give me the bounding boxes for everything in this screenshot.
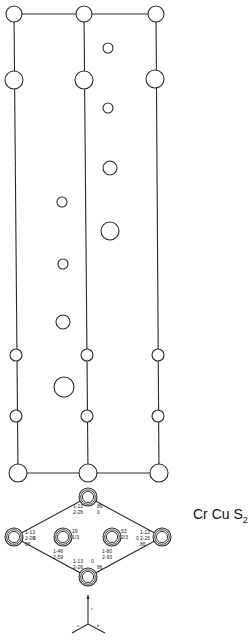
- formula-elements: Cr Cu S: [193, 506, 243, 522]
- top-view-projection: 1-132-268601-132-26086191/31-462-59532/3…: [5, 488, 171, 586]
- a-axis-arrow: [72, 624, 88, 633]
- site-label: 0: [97, 509, 100, 515]
- site-top: 1-132-26860: [73, 488, 103, 515]
- atom-circle: [10, 410, 22, 422]
- c-axis-arrowhead-icon: [87, 594, 90, 599]
- site-label: 2-93: [102, 554, 112, 560]
- b-axis-label: b: [97, 623, 100, 628]
- atom-circle: [10, 349, 22, 361]
- atom-circle: [54, 377, 74, 397]
- atom-circle: [103, 103, 113, 113]
- site-ring: [5, 528, 23, 546]
- atom-circle: [150, 464, 168, 482]
- top-view-sites: 1-132-268601-132-26086191/31-462-59532/3…: [5, 488, 171, 586]
- site-label: 2/3: [121, 534, 128, 540]
- atom-circle: [152, 410, 164, 422]
- atom-circle: [81, 410, 93, 422]
- atom-circle: [79, 464, 97, 482]
- site-label: 86: [140, 541, 146, 547]
- atom-circle: [152, 349, 164, 361]
- site-inner-left: 191/31-462-59: [53, 528, 79, 560]
- axes-indicator: c a b: [72, 594, 105, 633]
- atom-circle: [5, 71, 23, 89]
- site-ring: [54, 528, 72, 546]
- atom-circle: [103, 161, 117, 175]
- site-label: 0: [91, 558, 94, 564]
- c-axis-label: c: [91, 606, 93, 611]
- site-ring: [79, 568, 97, 586]
- crystal-structure-diagram: 1-132-268601-132-26086191/31-462-59532/3…: [0, 0, 249, 640]
- atom-circle: [76, 6, 92, 22]
- atom-circle: [103, 43, 113, 53]
- atom-circle: [56, 315, 70, 329]
- site-ring: [103, 528, 121, 546]
- site-left: 1-132-26086: [5, 528, 36, 547]
- site-label: 2-26: [73, 509, 83, 515]
- site-right: 1-132-26086: [136, 528, 171, 547]
- atom-circle: [81, 349, 93, 361]
- atom-circle: [75, 71, 93, 89]
- site-inner-right: 532/31-802-93: [102, 528, 128, 560]
- atom-circle: [57, 197, 67, 207]
- site-label: 86: [25, 541, 31, 547]
- atom-circle: [146, 70, 164, 88]
- compound-formula: Cr Cu S2: [193, 506, 248, 525]
- atom-circle: [101, 222, 119, 240]
- site-label: 86: [97, 564, 103, 570]
- atom-circle: [6, 6, 22, 22]
- atom-circle: [148, 6, 164, 22]
- atom-circle: [58, 259, 68, 269]
- formula-subscript: 2: [243, 515, 248, 525]
- a-axis-label: a: [77, 623, 80, 628]
- site-label: 0: [136, 535, 139, 541]
- site-label: 1/3: [72, 534, 79, 540]
- site-label: 2-59: [53, 554, 63, 560]
- atom-circle: [9, 464, 27, 482]
- site-label: 0: [33, 535, 36, 541]
- site-ring: [153, 528, 171, 546]
- site-label: 2-26: [73, 564, 83, 570]
